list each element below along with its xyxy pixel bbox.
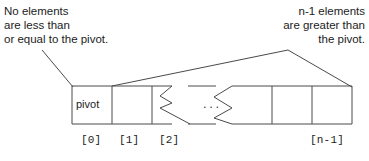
partition-diagram: No elements are less than or equal to th… (0, 0, 369, 161)
leader-line-left (42, 50, 73, 87)
array-ellipsis: ... (203, 96, 222, 111)
annotation-left-line-1: No elements (4, 4, 108, 18)
annotation-right-line-3: the pivot. (283, 32, 365, 46)
array-break-zigzag-left (160, 86, 190, 124)
array-index-label-1: [1] (119, 134, 139, 146)
annotation-right-of-pivot: n-1 elements are greater than the pivot. (283, 4, 365, 47)
array-index-label-2: [2] (159, 134, 179, 146)
leader-line-right-falling (288, 50, 352, 87)
pivot-cell-label: pivot (76, 98, 99, 110)
annotation-right-line-2: are greater than (283, 18, 365, 32)
annotation-left-line-3: or equal to the pivot. (4, 32, 108, 46)
array-index-label-last: [n-1] (310, 134, 344, 146)
array-index-label-0: [0] (81, 134, 101, 146)
leader-line-right-rising (112, 50, 288, 86)
annotation-right-line-1: n-1 elements (283, 4, 365, 18)
annotation-left-of-pivot: No elements are less than or equal to th… (4, 4, 108, 47)
annotation-left-line-2: are less than (4, 18, 108, 32)
